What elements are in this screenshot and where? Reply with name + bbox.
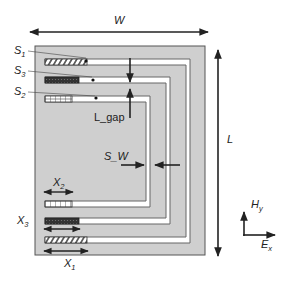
- s2-top-load: [45, 96, 72, 102]
- s1-feed-dot: [84, 59, 87, 62]
- s2-feed-dot: [94, 96, 97, 99]
- hy-label: Hy: [251, 198, 264, 213]
- length-label: L: [227, 133, 233, 145]
- resonator-diagram: W L S1 S3 S2 L_gap S_W X2 X3 X1 Hy Ex: [0, 0, 292, 281]
- s3-bottom-load: [45, 218, 79, 224]
- x3-label: X3: [16, 214, 29, 229]
- s3-top-load: [45, 77, 79, 83]
- s1-bottom-load: [45, 237, 87, 243]
- x1-label: X1: [63, 257, 76, 272]
- ex-label: Ex: [261, 238, 272, 253]
- strip-width-label: S_W: [104, 150, 129, 162]
- s3-feed-dot: [91, 78, 94, 81]
- s2-bottom-load: [45, 201, 72, 207]
- s1-label: S1: [14, 44, 26, 59]
- s1-top-load: [45, 59, 87, 65]
- width-label: W: [114, 14, 126, 26]
- gap-label: L_gap: [94, 111, 125, 123]
- s3-label: S3: [14, 64, 26, 79]
- s2-label: S2: [14, 85, 26, 100]
